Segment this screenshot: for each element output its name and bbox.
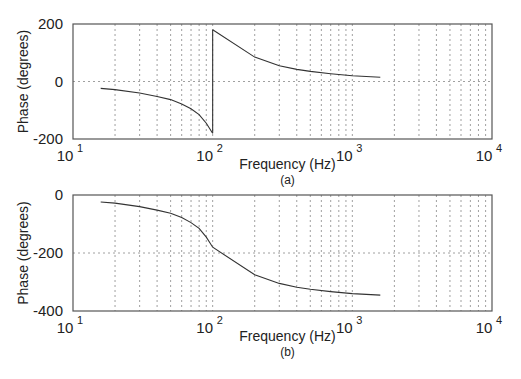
panel-sublabel: (a): [280, 173, 295, 187]
y-tick-label: 200: [38, 15, 63, 32]
y-tick-label: 0: [55, 73, 63, 90]
x-tick-label: 10: [336, 319, 353, 336]
panel-a-plot: 2000-200101102103104Frequency (Hz)(a)Pha…: [15, 15, 502, 187]
phase-plots-figure: 2000-200101102103104Frequency (Hz)(a)Pha…: [0, 0, 521, 379]
phase-curve: [101, 202, 381, 295]
x-tick-exponent: 3: [356, 314, 362, 326]
x-tick-label: 10: [196, 147, 213, 164]
x-tick-exponent: 1: [77, 314, 83, 326]
x-tick-exponent: 2: [217, 142, 223, 154]
x-tick-label: 10: [476, 147, 493, 164]
x-tick-exponent: 2: [217, 314, 223, 326]
y-tick-label: -200: [33, 130, 63, 147]
panel-b-plot: 0-200-400101102103104Frequency (Hz)(b)Ph…: [15, 186, 502, 359]
y-axis-label: Phase (degrees): [15, 201, 31, 305]
x-tick-exponent: 3: [356, 142, 362, 154]
x-tick-label: 10: [196, 319, 213, 336]
x-axis-label: Frequency (Hz): [239, 156, 335, 172]
y-tick-label: -400: [33, 302, 63, 319]
panel-sublabel: (b): [280, 345, 295, 359]
x-axis-label: Frequency (Hz): [239, 328, 335, 344]
x-tick-exponent: 4: [496, 142, 502, 154]
y-axis-label: Phase (degrees): [15, 30, 31, 134]
y-tick-label: 0: [55, 186, 63, 203]
phase-curve: [101, 88, 213, 133]
x-tick-exponent: 4: [496, 314, 502, 326]
x-tick-label: 10: [476, 319, 493, 336]
x-tick-exponent: 1: [77, 142, 83, 154]
y-tick-label: -200: [33, 244, 63, 261]
x-tick-label: 10: [336, 147, 353, 164]
x-tick-label: 10: [57, 319, 74, 336]
x-tick-label: 10: [57, 147, 74, 164]
